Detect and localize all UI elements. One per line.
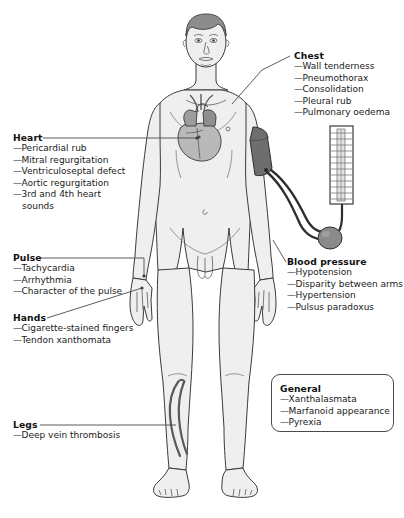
item-text: Tachycardia [22, 263, 75, 273]
item-text: Deep vein thrombosis [22, 430, 121, 440]
item-text: Tendon xanthomata [22, 335, 112, 345]
callout-hands-item-0: —Cigarette-stained fingers [13, 323, 133, 335]
callout-chest-item-3: —Pleural rub [294, 96, 390, 108]
callout-general: General —Xanthalasmata —Marfanoid appear… [280, 383, 390, 429]
callout-heart-item-4: —3rd and 4th heart [13, 189, 125, 201]
callout-blood-pressure-item-0: —Hypotension [287, 267, 403, 279]
dash: — [294, 84, 303, 94]
item-text: 3rd and 4th heart [22, 189, 101, 199]
dash: — [287, 302, 296, 312]
callout-heart-item-1: —Mitral regurgitation [13, 155, 125, 167]
item-text: Marfanoid appearance [289, 406, 390, 416]
callout-legs-item-0: —Deep vein thrombosis [13, 430, 120, 442]
dash: — [294, 73, 303, 83]
dash: — [13, 263, 22, 273]
callout-chest-item-4: —Pulmonary oedema [294, 107, 390, 119]
item-text: Pulsus paradoxus [296, 302, 375, 312]
dash: — [13, 275, 22, 285]
leader-chest [232, 56, 290, 104]
callout-heart: Heart —Pericardial rub —Mitral regurgita… [13, 132, 125, 213]
callout-chest-title: Chest [294, 50, 390, 61]
item-text: Wall tenderness [303, 61, 375, 71]
item-text: Pneumothorax [303, 73, 369, 83]
callout-legs-title: Legs [13, 419, 120, 430]
cuff-tubing [267, 170, 328, 239]
callout-pulse-item-1: —Arrhythmia [13, 275, 122, 287]
dash: — [13, 155, 22, 165]
item-text: Ventriculoseptal defect [22, 166, 126, 176]
callout-general-item-0: —Xanthalasmata [280, 394, 390, 406]
dash: — [294, 96, 303, 106]
dash: — [13, 335, 22, 345]
item-text: Hypertension [296, 290, 356, 300]
item-text: Disparity between arms [296, 279, 404, 289]
dash: — [287, 290, 296, 300]
callout-heart-title: Heart [13, 132, 125, 143]
callout-legs: Legs —Deep vein thrombosis [13, 419, 120, 442]
item-text: Pyrexia [289, 417, 322, 427]
callout-blood-pressure: Blood pressure —Hypotension —Disparity b… [287, 256, 403, 313]
dash: — [280, 417, 289, 427]
item-text: Pleural rub [303, 96, 352, 106]
callout-chest-item-1: —Pneumothorax [294, 73, 390, 85]
dash: — [13, 323, 22, 333]
callout-heart-item-3: —Aortic regurgitation [13, 178, 125, 190]
head-group [183, 14, 229, 90]
callout-hands-item-1: —Tendon xanthomata [13, 335, 133, 347]
item-text: Pericardial rub [22, 143, 87, 153]
dash: — [294, 107, 303, 117]
callout-chest-item-2: —Consolidation [294, 84, 390, 96]
callout-pulse-item-0: —Tachycardia [13, 263, 122, 275]
inflation-bulb-icon [318, 227, 342, 249]
callout-heart-continuation: sounds [13, 201, 125, 213]
callout-heart-item-2: —Ventriculoseptal defect [13, 166, 125, 178]
dash: — [13, 178, 22, 188]
callout-hands: Hands —Cigarette-stained fingers —Tendon… [13, 312, 133, 346]
item-text: Hypotension [296, 267, 352, 277]
item-text: Cigarette-stained fingers [22, 323, 134, 333]
dash: — [13, 189, 22, 199]
diagram-canvas: .sk{fill:#efefef;stroke:#3a3a3a;stroke-w… [0, 0, 404, 518]
callout-blood-pressure-item-1: —Disparity between arms [287, 279, 403, 291]
dash: — [280, 394, 289, 404]
dash: — [294, 61, 303, 71]
item-text: Mitral regurgitation [22, 155, 109, 165]
callout-general-title: General [280, 383, 390, 394]
callout-hands-title: Hands [13, 312, 133, 323]
item-text: Character of the pulse [22, 286, 123, 296]
callout-pulse-item-2: —Character of the pulse [13, 286, 122, 298]
dash: — [280, 406, 289, 416]
dash: — [13, 286, 22, 296]
item-text: Consolidation [303, 84, 364, 94]
item-text: Arrhythmia [22, 275, 72, 285]
dash: — [287, 267, 296, 277]
callout-pulse: Pulse —Tachycardia —Arrhythmia —Characte… [13, 252, 122, 298]
callout-chest: Chest —Wall tenderness —Pneumothorax —Co… [294, 50, 390, 119]
sphygmomanometer-column-icon [330, 126, 353, 204]
item-text: Pulmonary oedema [303, 107, 390, 117]
item-text: Xanthalasmata [289, 394, 357, 404]
callout-heart-item-0: —Pericardial rub [13, 143, 125, 155]
item-text: Aortic regurgitation [22, 178, 110, 188]
callout-general-item-2: —Pyrexia [280, 417, 390, 429]
callout-blood-pressure-item-3: —Pulsus paradoxus [287, 302, 403, 314]
callout-blood-pressure-title: Blood pressure [287, 256, 403, 267]
callout-blood-pressure-item-2: —Hypertension [287, 290, 403, 302]
dash: — [13, 166, 22, 176]
callout-pulse-title: Pulse [13, 252, 122, 263]
dash: — [13, 143, 22, 153]
leader-bp [273, 240, 286, 262]
callout-chest-item-0: —Wall tenderness [294, 61, 390, 73]
dash: — [287, 279, 296, 289]
callout-general-item-1: —Marfanoid appearance [280, 406, 390, 418]
dash: — [13, 430, 22, 440]
